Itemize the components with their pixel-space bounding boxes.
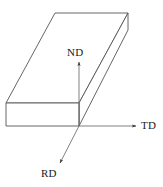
td-axis-label: TD	[141, 120, 156, 131]
slab-axes-diagram	[0, 0, 163, 187]
nd-axis-label: ND	[67, 47, 83, 58]
rd-axis-arrow	[60, 126, 79, 163]
slab-body	[6, 13, 128, 126]
slab-front-face	[6, 103, 79, 126]
figure-container: ND TD RD	[0, 0, 163, 187]
rd-axis-label: RD	[41, 168, 57, 179]
